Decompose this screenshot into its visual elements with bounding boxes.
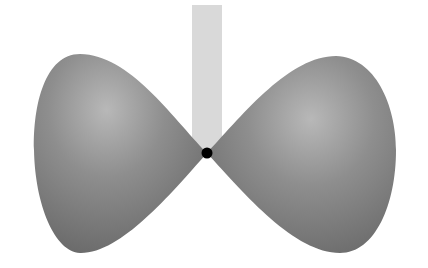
right-lobe	[207, 56, 396, 253]
orbital-diagram	[0, 0, 428, 268]
orbital-svg	[0, 0, 428, 268]
vertical-bar	[192, 5, 222, 155]
node-dot	[202, 148, 213, 159]
left-lobe	[34, 54, 207, 253]
